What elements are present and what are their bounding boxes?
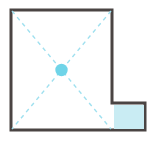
center-point-handle[interactable] [55, 64, 67, 76]
diagram-canvas [0, 0, 156, 145]
bottom-right-extension-fill[interactable] [114, 105, 144, 129]
floor-plan-svg [0, 0, 156, 145]
